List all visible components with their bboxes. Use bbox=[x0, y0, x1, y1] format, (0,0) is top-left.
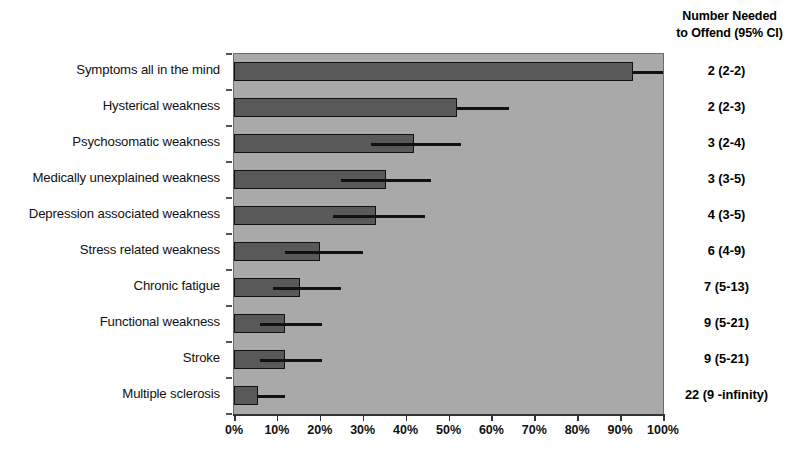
nno-value: 9 (5-21) bbox=[660, 315, 793, 330]
error-bar bbox=[341, 179, 431, 182]
x-axis-tick-label: 30% bbox=[350, 423, 375, 437]
x-axis-tick bbox=[620, 415, 622, 421]
nno-value: 3 (3-5) bbox=[660, 171, 793, 186]
category-label: Depression associated weakness bbox=[0, 206, 220, 221]
y-axis-tick bbox=[226, 377, 232, 379]
chart-figure: Number Needed to Offend (95% CI) Symptom… bbox=[0, 0, 799, 461]
error-bar bbox=[371, 143, 461, 146]
y-axis-tick bbox=[226, 161, 232, 163]
plot-area bbox=[233, 53, 664, 415]
error-bar bbox=[633, 71, 663, 74]
x-axis-tick bbox=[277, 415, 279, 421]
category-label: Stress related weakness bbox=[0, 242, 220, 257]
bar bbox=[234, 62, 633, 81]
x-axis-tick bbox=[449, 415, 451, 421]
x-axis-tick bbox=[491, 415, 493, 421]
x-axis-tick bbox=[406, 415, 408, 421]
y-axis-tick bbox=[226, 233, 232, 235]
x-axis-tick bbox=[577, 415, 579, 421]
y-axis-tick bbox=[226, 341, 232, 343]
y-axis-tick bbox=[226, 89, 232, 91]
x-axis-tick-label: 70% bbox=[522, 423, 547, 437]
y-axis-tick bbox=[226, 53, 232, 55]
error-bar bbox=[273, 287, 342, 290]
nno-header-line1: Number Needed bbox=[660, 8, 799, 25]
y-axis-tick bbox=[226, 305, 232, 307]
nno-value: 4 (3-5) bbox=[660, 207, 793, 222]
nno-column-header: Number Needed to Offend (95% CI) bbox=[660, 8, 799, 42]
x-axis-tick bbox=[534, 415, 536, 421]
x-axis-tick-label: 0% bbox=[225, 423, 243, 437]
category-label: Symptoms all in the mind bbox=[0, 62, 220, 77]
nno-value: 22 (9 -infinity) bbox=[660, 387, 793, 402]
x-axis-tick-label: 100% bbox=[647, 423, 679, 437]
x-axis-tick bbox=[363, 415, 365, 421]
nno-value: 2 (2-2) bbox=[660, 63, 793, 78]
x-axis-tick-label: 80% bbox=[565, 423, 590, 437]
y-axis-tick bbox=[226, 269, 232, 271]
x-axis-tick-label: 50% bbox=[436, 423, 461, 437]
error-bar bbox=[260, 359, 322, 362]
category-axis-labels: Symptoms all in the mindHysterical weakn… bbox=[0, 53, 228, 415]
y-axis-tick bbox=[226, 125, 232, 127]
error-bar bbox=[285, 251, 362, 254]
nno-value: 9 (5-21) bbox=[660, 351, 793, 366]
y-axis-tick bbox=[226, 197, 232, 199]
category-label: Medically unexplained weakness bbox=[0, 170, 220, 185]
nno-value: 7 (5-13) bbox=[660, 279, 793, 294]
category-label: Stroke bbox=[0, 350, 220, 365]
error-bar bbox=[457, 107, 508, 110]
x-axis-tick-label: 10% bbox=[264, 423, 289, 437]
bar bbox=[234, 386, 258, 405]
category-label: Hysterical weakness bbox=[0, 98, 220, 113]
x-axis-tick-label: 40% bbox=[393, 423, 418, 437]
nno-value: 6 (4-9) bbox=[660, 243, 793, 258]
bar bbox=[234, 98, 457, 117]
category-label: Psychosomatic weakness bbox=[0, 134, 220, 149]
category-label: Multiple sclerosis bbox=[0, 386, 220, 401]
nno-header-line2: to Offend (95% CI) bbox=[660, 25, 799, 42]
x-axis-tick bbox=[320, 415, 322, 421]
category-label: Chronic fatigue bbox=[0, 278, 220, 293]
x-axis-tick-label: 20% bbox=[307, 423, 332, 437]
x-axis-tick bbox=[234, 415, 236, 421]
y-axis-tick bbox=[226, 413, 232, 415]
error-bar bbox=[258, 395, 286, 398]
error-bar bbox=[260, 323, 322, 326]
error-bar bbox=[333, 215, 425, 218]
nno-column-values: 2 (2-2)2 (2-3)3 (2-4)3 (3-5)4 (3-5)6 (4-… bbox=[660, 53, 799, 415]
x-axis-tick-label: 90% bbox=[608, 423, 633, 437]
x-axis-tick-label: 60% bbox=[479, 423, 504, 437]
nno-value: 3 (2-4) bbox=[660, 135, 793, 150]
nno-value: 2 (2-3) bbox=[660, 99, 793, 114]
category-label: Functional weakness bbox=[0, 314, 220, 329]
x-axis-tick bbox=[663, 415, 665, 421]
